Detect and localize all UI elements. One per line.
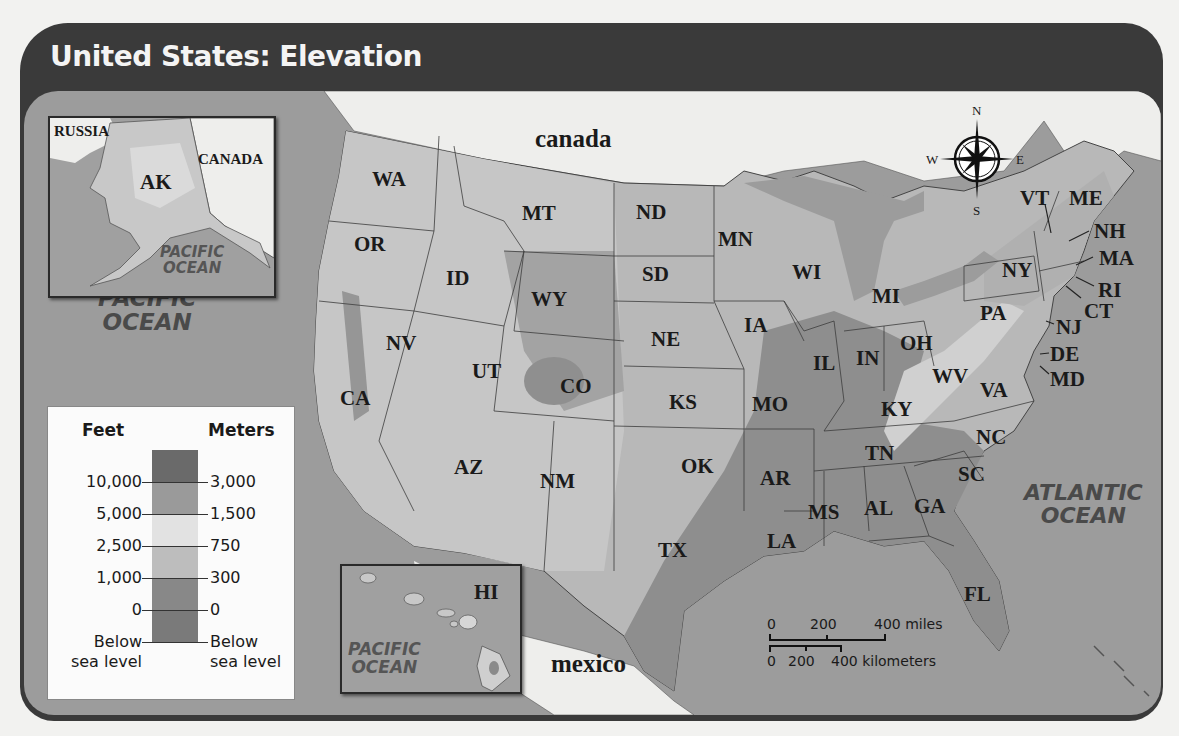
legend-band-below-sea bbox=[152, 610, 198, 642]
legend-tick-line bbox=[142, 642, 208, 643]
state-label-ne: NE bbox=[651, 329, 680, 350]
state-label-or: OR bbox=[354, 234, 386, 255]
state-label-ms: MS bbox=[808, 502, 840, 523]
compass-w: W bbox=[926, 152, 938, 168]
legend-tick-line bbox=[142, 578, 208, 579]
legend-band-1500-3000 bbox=[152, 482, 198, 514]
label-mexico: mexico bbox=[551, 651, 626, 676]
state-label-mn: MN bbox=[718, 229, 753, 250]
state-label-id: ID bbox=[446, 268, 469, 289]
legend-tick-line bbox=[142, 546, 208, 547]
state-label-co: CO bbox=[560, 376, 592, 397]
state-label-me: ME bbox=[1069, 188, 1103, 209]
scale-km-0: 0 bbox=[767, 653, 776, 669]
legend-feet-2500: 2,500 bbox=[96, 538, 142, 554]
map-title: United States: Elevation bbox=[50, 40, 422, 73]
state-label-wv: WV bbox=[932, 366, 968, 387]
legend-feet-1000: 1,000 bbox=[96, 570, 142, 586]
legend-feet-10000: 10,000 bbox=[86, 474, 142, 490]
state-label-mi: MI bbox=[872, 286, 900, 307]
legend-meters-750: 750 bbox=[210, 538, 241, 554]
state-label-sd: SD bbox=[642, 264, 669, 285]
legend-meters-300: 300 bbox=[210, 570, 241, 586]
state-label-nm: NM bbox=[540, 471, 575, 492]
state-label-ar: AR bbox=[760, 468, 790, 489]
scale-km-400: 400 kilometers bbox=[831, 653, 936, 669]
scale-bar: 0 200 400 miles 0 200 400 kilometers bbox=[764, 616, 984, 676]
legend-tick-line bbox=[142, 514, 208, 515]
legend-tick-line bbox=[142, 482, 208, 483]
legend-feet-sea-level: sea level bbox=[71, 654, 142, 670]
ocean-line-2: OCEAN bbox=[160, 261, 224, 277]
alaska-inset: RUSSIA CANADA AK PACIFIC OCEAN bbox=[48, 116, 276, 298]
state-label-wi: WI bbox=[792, 262, 821, 283]
compass-e: E bbox=[1016, 152, 1024, 168]
state-label-pa: PA bbox=[980, 303, 1006, 324]
compass-n: N bbox=[972, 103, 981, 119]
state-label-sc: SC bbox=[958, 464, 985, 485]
state-label-al: AL bbox=[864, 498, 893, 519]
compass-rose: N S W E bbox=[932, 101, 1022, 211]
ocean-line-1: ATLANTIC bbox=[1024, 481, 1143, 504]
state-label-ca: CA bbox=[340, 388, 370, 409]
state-label-ny: NY bbox=[1002, 260, 1032, 281]
ocean-line-2: OCEAN bbox=[98, 310, 196, 334]
label-ak: AK bbox=[140, 172, 172, 193]
label-canada-inset: CANADA bbox=[198, 152, 263, 167]
state-label-tn: TN bbox=[865, 443, 894, 464]
ocean-line-2: OCEAN bbox=[348, 659, 421, 677]
state-label-az: AZ bbox=[454, 457, 483, 478]
scale-km-200: 200 bbox=[788, 653, 815, 669]
state-label-nv: NV bbox=[386, 333, 416, 354]
legend-meters-1500: 1,500 bbox=[210, 506, 256, 522]
state-label-ks: KS bbox=[669, 392, 697, 413]
state-label-la: LA bbox=[767, 531, 796, 552]
legend-meters-sea-level: sea level bbox=[210, 654, 281, 670]
state-label-md: MD bbox=[1050, 369, 1085, 390]
legend-feet-0: 0 bbox=[132, 602, 142, 618]
state-label-de: DE bbox=[1050, 344, 1079, 365]
state-label-tx: TX bbox=[658, 540, 687, 561]
state-label-il: IL bbox=[813, 353, 835, 374]
state-label-ri: RI bbox=[1098, 280, 1121, 301]
state-label-nj: NJ bbox=[1056, 317, 1082, 338]
legend-band-0-300 bbox=[152, 578, 198, 610]
legend-feet-below: Below bbox=[94, 634, 142, 650]
compass-s: S bbox=[973, 203, 980, 219]
state-label-nd: ND bbox=[636, 202, 666, 223]
state-label-ga: GA bbox=[914, 496, 946, 517]
legend-meters-0: 0 bbox=[210, 602, 220, 618]
ocean-line-2: OCEAN bbox=[1024, 504, 1143, 527]
state-label-ct: CT bbox=[1084, 301, 1113, 322]
state-label-mo: MO bbox=[752, 394, 788, 415]
hawaii-inset-ocean: PACIFIC OCEAN bbox=[348, 641, 421, 677]
label-russia: RUSSIA bbox=[54, 124, 109, 139]
state-label-ok: OK bbox=[681, 456, 714, 477]
label-atlantic-ocean: ATLANTIC OCEAN bbox=[1024, 481, 1143, 527]
state-label-wy: WY bbox=[531, 289, 567, 310]
state-label-va: VA bbox=[980, 380, 1008, 401]
hawaii-inset: HI PACIFIC OCEAN bbox=[340, 564, 522, 694]
label-hi: HI bbox=[474, 582, 499, 603]
state-label-vt: VT bbox=[1020, 188, 1049, 209]
alaska-inset-ocean: PACIFIC OCEAN bbox=[160, 245, 224, 277]
state-label-fl: FL bbox=[964, 584, 991, 605]
state-label-wa: WA bbox=[372, 169, 406, 190]
legend-meters-3000: 3,000 bbox=[210, 474, 256, 490]
legend-band-above-3000 bbox=[152, 450, 198, 482]
state-label-mt: MT bbox=[522, 203, 556, 224]
state-label-nh: NH bbox=[1094, 221, 1126, 242]
state-label-oh: OH bbox=[900, 333, 933, 354]
state-label-in: IN bbox=[856, 348, 879, 369]
legend-band-750-1500 bbox=[152, 514, 198, 546]
legend-band-300-750 bbox=[152, 546, 198, 578]
state-label-ky: KY bbox=[881, 399, 913, 420]
legend-meters-header: Meters bbox=[208, 420, 275, 440]
legend-meters-below: Below bbox=[210, 634, 258, 650]
state-label-ia: IA bbox=[744, 315, 767, 336]
state-label-ma: MA bbox=[1099, 248, 1134, 269]
state-label-ut: UT bbox=[472, 361, 501, 382]
legend-tick-line bbox=[142, 610, 208, 611]
legend-feet-5000: 5,000 bbox=[96, 506, 142, 522]
map-area: canada mexico PACIFIC OCEAN ATLANTIC OCE… bbox=[24, 91, 1161, 715]
